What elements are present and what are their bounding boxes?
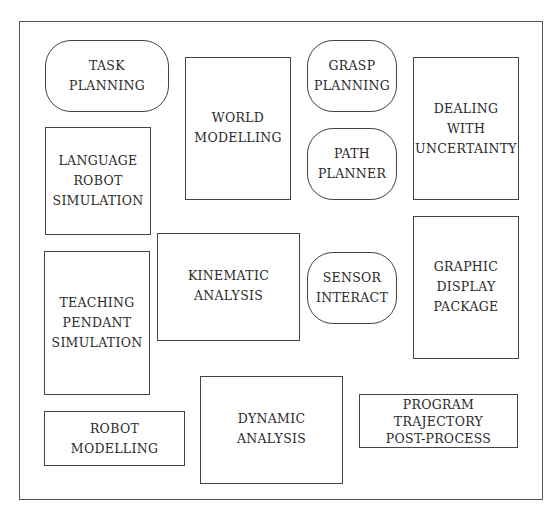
box-label: PROGRAM TRAJECTORY POST-PROCESS (386, 396, 491, 447)
box-graphic-display-package: GRAPHIC DISPLAY PACKAGE (413, 216, 519, 359)
box-label: GRAPHIC DISPLAY PACKAGE (434, 257, 499, 317)
box-label: WORLD MODELLING (194, 108, 281, 148)
box-label: ROBOT MODELLING (71, 419, 158, 459)
box-label: PATH PLANNER (318, 144, 386, 184)
box-label: GRASP PLANNING (314, 56, 390, 96)
box-sensor-interact: SENSOR INTERACT (307, 252, 397, 324)
box-label: TASK PLANNING (69, 56, 145, 96)
box-task-planning: TASK PLANNING (45, 40, 169, 112)
box-kinematic-analysis: KINEMATIC ANALYSIS (157, 233, 300, 341)
box-label: DEALING WITH UNCERTAINTY (415, 99, 517, 159)
box-program-trajectory-post-process: PROGRAM TRAJECTORY POST-PROCESS (359, 394, 518, 448)
box-label: LANGUAGE ROBOT SIMULATION (53, 151, 144, 211)
box-teaching-pendant-simulation: TEACHING PENDANT SIMULATION (44, 251, 150, 395)
box-path-planner: PATH PLANNER (307, 128, 397, 200)
box-language-robot-simulation: LANGUAGE ROBOT SIMULATION (45, 127, 151, 235)
box-world-modelling: WORLD MODELLING (185, 57, 291, 200)
box-grasp-planning: GRASP PLANNING (307, 40, 397, 112)
box-label: DYNAMIC ANALYSIS (237, 409, 306, 449)
box-dynamic-analysis: DYNAMIC ANALYSIS (200, 376, 343, 484)
box-label: KINEMATIC ANALYSIS (188, 266, 269, 306)
box-robot-modelling: ROBOT MODELLING (44, 411, 185, 466)
box-label: SENSOR INTERACT (316, 268, 388, 308)
box-label: TEACHING PENDANT SIMULATION (52, 293, 143, 353)
box-dealing-with-uncertainty: DEALING WITH UNCERTAINTY (413, 57, 519, 200)
